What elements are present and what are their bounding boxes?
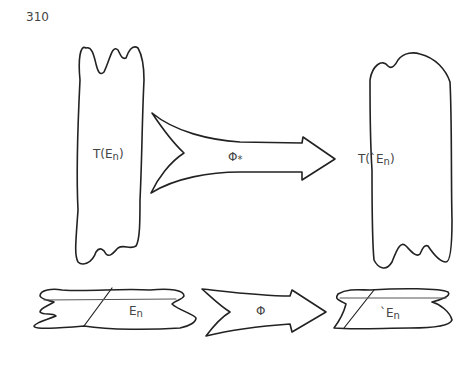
bundle-left-shape	[34, 289, 196, 329]
bundle-map-diagram	[0, 0, 473, 365]
bundle-right-fiber-line	[344, 290, 374, 328]
bundle-left-fiber-line	[84, 288, 112, 326]
label-bundle-left-main: E	[129, 304, 137, 318]
label-bundle-right-sub: n	[394, 310, 400, 321]
label-pushforward: Φ*	[228, 150, 242, 164]
label-bundle-left-sub: n	[137, 308, 143, 319]
pushforward-arrow-shape	[151, 113, 335, 193]
label-bundle-right: `En	[380, 306, 400, 320]
label-bundle-left: En	[129, 304, 143, 318]
label-bundle-right-main: `E	[380, 306, 394, 320]
label-tangent-left-close: )	[119, 147, 124, 161]
label-map: Φ	[256, 304, 265, 318]
label-tangent-right-close: )	[390, 152, 395, 166]
label-tangent-left-main: T(E	[93, 147, 113, 161]
label-tangent-left: T(En)	[93, 147, 124, 161]
label-tangent-right: T(`En)	[358, 152, 395, 166]
label-tangent-left-sub: n	[113, 151, 119, 162]
label-tangent-right-main: T(`E	[358, 152, 384, 166]
label-map-main: Φ	[256, 304, 265, 318]
bundle-left-section-line	[44, 299, 176, 300]
label-pushforward-sub: *	[237, 154, 242, 165]
label-tangent-right-sub: n	[384, 156, 390, 167]
